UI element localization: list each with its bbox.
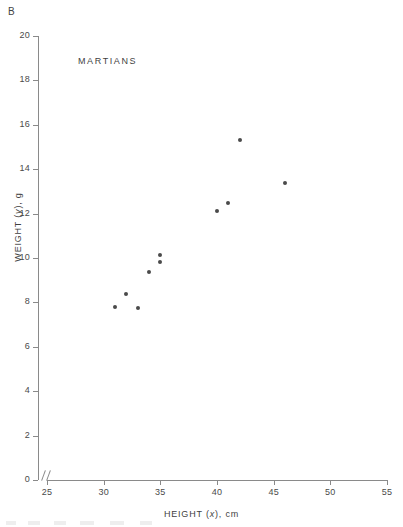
data-point: [238, 138, 242, 142]
data-point: [136, 306, 140, 310]
data-point: [226, 201, 230, 205]
series-title-label: MARTIANS: [78, 56, 137, 66]
y-axis-label-suffix: ), g: [13, 192, 23, 208]
scatter-plot: 20181614121086420 25303540455055 MARTIAN…: [0, 0, 403, 527]
data-point: [283, 181, 287, 185]
data-point: [158, 260, 162, 264]
y-axis-label-prefix: WEIGHT (: [13, 214, 23, 262]
page-bottom-artifact: [6, 521, 166, 525]
y-axis-label: WEIGHT (y), g: [13, 172, 23, 282]
data-point: [113, 305, 117, 309]
x-axis-label-suffix: ), cm: [215, 509, 239, 519]
data-point: [158, 253, 162, 257]
y-axis-label-variable: y: [13, 209, 23, 214]
data-point: [124, 292, 128, 296]
data-point: [215, 209, 219, 213]
x-axis-label-prefix: HEIGHT (: [164, 509, 210, 519]
data-points-layer: [0, 0, 403, 527]
data-point: [147, 270, 151, 274]
x-axis-label: HEIGHT (x), cm: [0, 509, 403, 519]
